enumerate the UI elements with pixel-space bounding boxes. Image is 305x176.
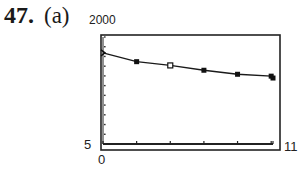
data-point-marker — [168, 63, 173, 68]
y-tick — [104, 95, 106, 96]
model-curve — [103, 53, 273, 78]
y-tick — [104, 134, 106, 135]
data-point-marker — [235, 72, 240, 77]
y-tick — [104, 75, 106, 76]
y-tick — [104, 65, 106, 66]
y-tick — [104, 124, 106, 125]
y-tick — [104, 36, 106, 37]
y-tick — [104, 46, 106, 47]
y-tick — [104, 56, 106, 57]
y-tick — [104, 104, 106, 105]
data-point-marker — [134, 59, 139, 64]
data-point-marker — [201, 68, 206, 73]
y-tick — [104, 114, 106, 115]
calculator-graph — [0, 0, 305, 176]
data-point-marker — [271, 76, 276, 81]
graph-frame — [101, 35, 280, 150]
y-tick — [104, 85, 106, 86]
